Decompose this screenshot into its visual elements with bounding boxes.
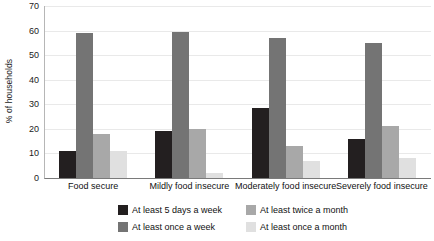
chart-legend: At least 5 days a weekAt least twice a m…: [118, 203, 418, 237]
bar[interactable]: [172, 32, 189, 178]
y-axis-tick-label: 20: [29, 124, 39, 134]
x-axis-category-label: Mildly food insecure: [150, 181, 230, 191]
bars-layer: [45, 6, 430, 178]
y-axis-tick-label: 30: [29, 99, 39, 109]
legend-item[interactable]: At least once a week: [118, 220, 215, 234]
y-axis-tick-labels: 010203040506070: [0, 0, 44, 179]
legend-swatch-icon: [118, 205, 128, 215]
bar[interactable]: [286, 146, 303, 178]
legend-swatch-icon: [246, 222, 256, 232]
y-axis-tick-label: 70: [29, 1, 39, 11]
y-axis-tick-label: 10: [29, 148, 39, 158]
x-axis-category-label: Moderately food insecure: [235, 181, 336, 191]
y-axis-tick-label: 60: [29, 26, 39, 36]
legend-swatch-icon: [118, 222, 128, 232]
bar[interactable]: [303, 161, 320, 178]
bar-group: [252, 6, 320, 178]
legend-swatch-icon: [246, 205, 256, 215]
x-axis-category-label: Food secure: [68, 181, 118, 191]
bar-group: [348, 6, 416, 178]
legend-label: At least once a month: [260, 222, 347, 232]
bar[interactable]: [155, 131, 172, 178]
bar[interactable]: [252, 108, 269, 178]
bar[interactable]: [59, 151, 76, 178]
bar[interactable]: [189, 129, 206, 178]
legend-label: At least once a week: [132, 222, 215, 232]
bar[interactable]: [93, 134, 110, 178]
bar-group: [155, 6, 223, 178]
x-axis-category-labels: Food secureMildly food insecureModeratel…: [45, 181, 430, 197]
bar[interactable]: [110, 151, 127, 178]
legend-item[interactable]: At least once a month: [246, 220, 347, 234]
bar[interactable]: [76, 33, 93, 178]
bar[interactable]: [382, 126, 399, 178]
y-axis-tick-label: 50: [29, 50, 39, 60]
legend-item[interactable]: At least twice a month: [246, 203, 348, 217]
y-axis-tick-label: 40: [29, 75, 39, 85]
bar[interactable]: [348, 139, 365, 178]
legend-label: At least twice a month: [260, 205, 348, 215]
bar-group: [59, 6, 127, 178]
legend-item[interactable]: At least 5 days a week: [118, 203, 222, 217]
bar-chart: % of households 010203040506070 Food sec…: [0, 0, 434, 241]
legend-label: At least 5 days a week: [132, 205, 222, 215]
y-axis-tick-label: 0: [34, 173, 39, 183]
bar[interactable]: [399, 158, 416, 178]
bar[interactable]: [269, 38, 286, 178]
x-axis-category-label: Severely food insecure: [336, 181, 428, 191]
bar[interactable]: [206, 173, 223, 178]
bar[interactable]: [365, 43, 382, 178]
